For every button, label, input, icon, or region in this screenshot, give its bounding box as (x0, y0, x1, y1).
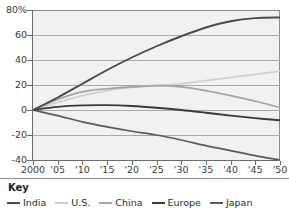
legend-entry-europe[interactable]: Europe (152, 198, 201, 208)
x-axis-tick-mark (280, 161, 281, 165)
x-axis-tick-mark (107, 161, 108, 165)
x-axis-tick-mark (33, 161, 34, 165)
legend-label: China (115, 198, 142, 208)
legend-line-icon (152, 202, 165, 204)
y-axis-tick-label: 80% (0, 5, 27, 15)
y-axis-tick-label: 40 (0, 55, 27, 65)
legend-entry-us[interactable]: U.S. (55, 198, 90, 208)
legend-line-icon (55, 202, 68, 204)
y-axis-tick-label: 60 (0, 30, 27, 40)
legend-label: U.S. (71, 198, 90, 208)
legend-entry-india[interactable]: India (7, 198, 46, 208)
legend-line-icon (210, 202, 223, 204)
chart-key: Key IndiaU.S.ChinaEuropeJapan (0, 178, 289, 218)
chart-screenshot: 80%6040200-20-402000'05'10'15'20'25'30'3… (0, 0, 289, 218)
x-axis-tick-mark (181, 161, 182, 165)
x-axis-tick-mark (157, 161, 158, 165)
x-axis-tick-label: '50 (273, 165, 288, 175)
x-axis-tick-label: '40 (223, 165, 238, 175)
y-axis-tick-label: 20 (0, 80, 27, 90)
legend-label: Europe (168, 198, 201, 208)
legend-label: Japan (226, 198, 253, 208)
legend-label: India (23, 198, 46, 208)
y-axis-tick-mark (27, 85, 33, 86)
x-axis-tick-label: '45 (248, 165, 263, 175)
line-chart: 80%6040200-20-402000'05'10'15'20'25'30'3… (0, 0, 289, 178)
legend-line-icon (99, 202, 112, 204)
y-axis-tick-mark (27, 60, 33, 61)
y-axis-tick-mark (27, 135, 33, 136)
x-axis-tick-label: '30 (174, 165, 189, 175)
x-axis-tick-mark (206, 161, 207, 165)
y-axis-tick-label: -20 (0, 130, 27, 140)
x-axis-tick-label: '35 (199, 165, 214, 175)
y-axis-tick-label: 0 (0, 105, 27, 115)
x-axis-tick-label: '20 (124, 165, 139, 175)
legend: IndiaU.S.ChinaEuropeJapan (7, 198, 285, 208)
x-axis-tick-mark (231, 161, 232, 165)
x-axis-tick-label: '05 (50, 165, 65, 175)
x-axis-tick-mark (132, 161, 133, 165)
x-axis-tick-label: '10 (75, 165, 90, 175)
x-axis-tick-mark (255, 161, 256, 165)
y-axis-tick-mark (27, 35, 33, 36)
x-axis-tick-label: '25 (149, 165, 164, 175)
legend-line-icon (7, 202, 20, 204)
x-axis-tick-label: 2000 (21, 165, 45, 175)
x-axis-tick-label: '15 (100, 165, 115, 175)
legend-entry-japan[interactable]: Japan (210, 198, 253, 208)
y-axis-tick-mark (27, 110, 33, 111)
y-axis-tick-mark (27, 10, 33, 11)
legend-entry-china[interactable]: China (99, 198, 142, 208)
key-title: Key (8, 182, 29, 193)
axis-labels: 80%6040200-20-402000'05'10'15'20'25'30'3… (0, 0, 289, 178)
x-axis-tick-mark (58, 161, 59, 165)
x-axis-tick-mark (82, 161, 83, 165)
